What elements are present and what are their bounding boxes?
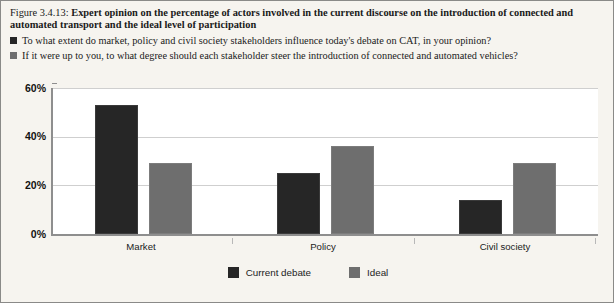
- legend-label: Ideal: [367, 267, 388, 278]
- legend-swatch-icon: [228, 267, 239, 278]
- plot-canvas: [51, 88, 598, 236]
- bar-group-policy: [234, 88, 416, 234]
- y-axis-tick-label: 20%: [25, 179, 46, 191]
- legend-label: Current debate: [246, 267, 311, 278]
- chart-legend: Current debate Ideal: [1, 267, 614, 278]
- bar-policy-current-debate[interactable]: [277, 173, 320, 234]
- bar-market-current-debate[interactable]: [95, 105, 138, 234]
- bar-civil-society-current-debate[interactable]: [459, 200, 502, 234]
- square-swatch-icon: [10, 37, 17, 44]
- figure-caption: Figure 3.4.13: Expert opinion on the per…: [10, 7, 606, 31]
- question-legend-list: To what extent do market, policy and civ…: [10, 34, 610, 64]
- bar-market-ideal[interactable]: [149, 163, 192, 234]
- legend-item-ideal[interactable]: Ideal: [349, 267, 388, 278]
- question-row: To what extent do market, policy and civ…: [10, 34, 610, 47]
- x-axis-label-market: Market: [126, 241, 155, 252]
- figure-panel: Figure 3.4.13: Expert opinion on the per…: [0, 0, 614, 303]
- bar-civil-society-ideal[interactable]: [513, 163, 556, 234]
- x-axis-tick: [414, 238, 415, 244]
- x-axis-label-civil-society: Civil society: [480, 241, 531, 252]
- question-text: If it were up to you, to what degree sho…: [22, 49, 518, 62]
- x-axis-label-policy: Policy: [310, 241, 336, 252]
- y-axis-tick-label: 0%: [31, 228, 46, 240]
- square-swatch-icon: [10, 52, 17, 59]
- legend-item-current-debate[interactable]: Current debate: [228, 267, 311, 278]
- y-axis-tick-label: 40%: [25, 130, 46, 142]
- chart-area: 60% 40% 20% 0%: [1, 77, 614, 303]
- bars-layer: [53, 88, 598, 234]
- x-axis-tick: [232, 238, 233, 244]
- figure-title: Expert opinion on the percentage of acto…: [10, 7, 573, 30]
- y-axis: 60% 40% 20% 0%: [1, 77, 49, 242]
- y-axis-tick-label: 60%: [25, 82, 46, 94]
- legend-swatch-icon: [349, 267, 360, 278]
- bar-policy-ideal[interactable]: [331, 146, 374, 234]
- y-axis-cap: [52, 83, 57, 84]
- question-row: If it were up to you, to what degree sho…: [10, 49, 610, 62]
- x-axis: Market Policy Civil society: [51, 238, 596, 256]
- question-text: To what extent do market, policy and civ…: [22, 34, 491, 47]
- bar-group-civil-society: [416, 88, 598, 234]
- x-axis-tick: [595, 238, 596, 244]
- figure-number: Figure 3.4.13:: [10, 7, 69, 18]
- bar-group-market: [53, 88, 234, 234]
